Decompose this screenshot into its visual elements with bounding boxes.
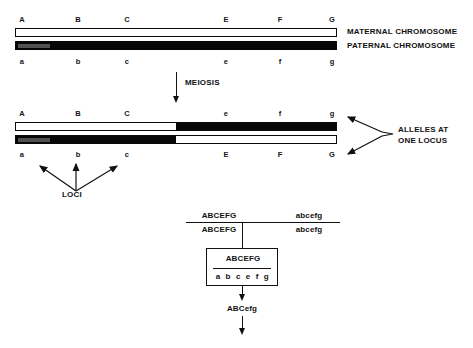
gamete-arrowhead-top-icon	[239, 294, 245, 301]
offspring-haplotype-bottom: a b c e f g	[207, 272, 279, 281]
offspring-divider	[213, 268, 271, 269]
gamete-arrowhead-bottom-icon	[239, 328, 245, 335]
parent-left-divider	[186, 222, 254, 223]
loci-arrow-icon	[0, 0, 473, 348]
descent-line	[242, 222, 243, 248]
offspring-haplotype-top: ABCEFG	[207, 254, 279, 263]
figure-canvas: A B C D E F G a b c d e f g MATERNAL CHR…	[0, 0, 473, 348]
loci-label: LOCI	[62, 190, 82, 199]
parent-right-haplotype-top: abcefg	[281, 211, 337, 220]
parent-left-haplotype-top: ABCEFG	[188, 211, 250, 220]
parent-right-divider	[278, 222, 340, 223]
gamete-haplotype: ABCefg	[211, 304, 273, 313]
parent-left-haplotype-bottom: ABCEFG	[188, 225, 250, 234]
offspring-genotype-box: ABCEFG a b c e f g	[206, 248, 278, 286]
parent-right-haplotype-bottom: abcefg	[281, 225, 337, 234]
mating-line	[254, 222, 278, 223]
